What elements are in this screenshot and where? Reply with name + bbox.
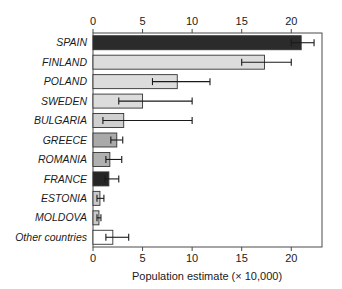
category-label: ROMANIA <box>38 153 87 165</box>
bottom-tick-label: 15 <box>236 252 248 264</box>
bars-layer <box>93 36 301 245</box>
chart-canvas: 05101520 05101520 SPAINFINLANDPOLANDSWED… <box>0 0 342 289</box>
category-label: GREECE <box>43 134 88 146</box>
category-label: MOLDOVA <box>35 211 87 223</box>
bottom-tick-label: 20 <box>285 252 297 264</box>
top-tick-label: 10 <box>186 15 198 27</box>
category-label: POLAND <box>44 75 88 87</box>
top-tick-label: 15 <box>236 15 248 27</box>
x-axis-title: Population estimate (× 10,000) <box>132 270 282 282</box>
category-label: Other countries <box>15 231 88 243</box>
top-tick-label: 0 <box>90 15 96 27</box>
category-label: BULGARIA <box>34 114 87 126</box>
top-tick-label: 5 <box>140 15 146 27</box>
category-label: FRANCE <box>44 173 88 185</box>
bar <box>93 36 301 50</box>
bottom-tick-label: 0 <box>90 252 96 264</box>
bar <box>93 55 265 69</box>
category-label: ESTONIA <box>41 192 87 204</box>
bottom-axis: 05101520 <box>90 247 297 264</box>
top-axis: 05101520 <box>90 15 297 33</box>
bottom-tick-label: 5 <box>140 252 146 264</box>
top-tick-label: 20 <box>285 15 297 27</box>
population-estimate-bar-chart: 05101520 05101520 SPAINFINLANDPOLANDSWED… <box>0 0 342 289</box>
category-label: SWEDEN <box>41 95 88 107</box>
category-labels: SPAINFINLANDPOLANDSWEDENBULGARIAGREECERO… <box>15 36 88 243</box>
category-label: FINLAND <box>42 56 87 68</box>
bottom-tick-label: 10 <box>186 252 198 264</box>
category-label: SPAIN <box>56 36 87 48</box>
